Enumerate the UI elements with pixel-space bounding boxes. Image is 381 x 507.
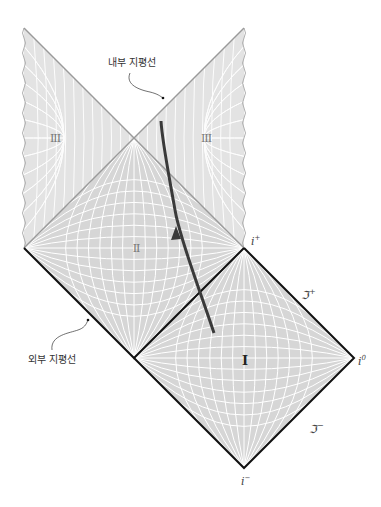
penrose-diagram: III III II I 내부 지평선 외부 지평선 i+ i0 i− ℑ+ ℑ… [0,0,381,507]
region-label-III-right: III [201,132,212,145]
label-scri-minus: ℑ− [309,421,324,436]
region-label-I: I [242,353,248,368]
outer-horizon-pointer-dot-icon [87,319,90,322]
inner-horizon-label: 내부 지평선 [108,57,156,68]
region-label-III-left: III [50,132,61,145]
label-scri-plus: ℑ+ [301,287,316,302]
outer-horizon-pointer [52,320,88,350]
label-i-zero: i0 [358,354,367,368]
inner-horizon-pointer-dot-icon [162,97,165,100]
label-i-plus: i+ [251,234,261,248]
inner-horizon-pointer [129,73,163,98]
region-label-II: II [133,242,140,255]
label-i-minus: i− [241,474,251,488]
outer-horizon-label: 외부 지평선 [28,354,76,365]
